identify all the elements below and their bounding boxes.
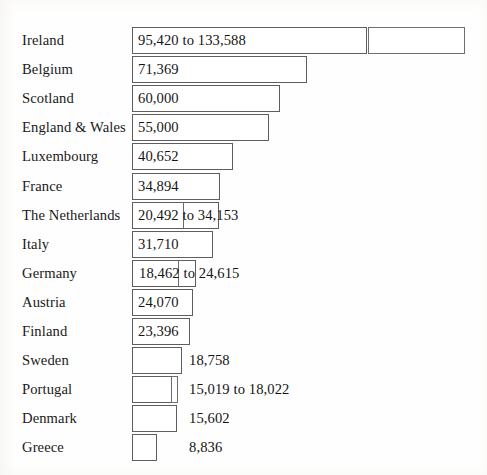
value-label: 18,462 to 24,615: [139, 259, 240, 288]
value-label: 34,894: [138, 172, 179, 201]
value-label: 95,420 to 133,588: [138, 26, 246, 55]
chart-row: Portugal15,019 to 18,022: [0, 375, 487, 404]
category-label: Belgium: [22, 55, 73, 84]
chart-row: England & Wales55,000: [0, 113, 487, 142]
category-label: Luxembourg: [22, 142, 98, 171]
bar-chart: Ireland95,420 to 133,588Belgium71,369Sco…: [0, 0, 487, 475]
bar: [132, 405, 177, 432]
value-label: 31,710: [138, 230, 179, 259]
value-label: 40,652: [138, 142, 179, 171]
category-label: The Netherlands: [22, 201, 120, 230]
chart-row: Luxembourg40,652: [0, 142, 487, 171]
category-label: England & Wales: [22, 113, 126, 142]
bar: [132, 434, 157, 461]
category-label: Ireland: [22, 26, 64, 55]
chart-row: Sweden18,758: [0, 346, 487, 375]
category-label: Denmark: [22, 404, 77, 433]
category-label: Austria: [22, 288, 66, 317]
chart-row: Scotland60,000: [0, 84, 487, 113]
category-label: Italy: [22, 230, 49, 259]
value-label: 23,396: [138, 317, 179, 346]
value-label: 71,369: [138, 55, 179, 84]
value-label: 55,000: [138, 113, 179, 142]
chart-row: Italy31,710: [0, 230, 487, 259]
category-label: Greece: [22, 433, 64, 462]
category-label: Portugal: [22, 375, 72, 404]
value-label: 15,602: [189, 404, 230, 433]
category-label: Germany: [22, 259, 77, 288]
chart-row: Finland23,396: [0, 317, 487, 346]
value-label: 24,070: [138, 288, 179, 317]
value-label: 18,758: [189, 346, 230, 375]
bar: [132, 347, 182, 374]
chart-row: France34,894: [0, 172, 487, 201]
chart-row: Greece8,836: [0, 433, 487, 462]
category-label: Sweden: [22, 346, 69, 375]
value-label: 60,000: [138, 84, 179, 113]
chart-row: Belgium71,369: [0, 55, 487, 84]
chart-row: The Netherlands20,492 to 34,153: [0, 201, 487, 230]
chart-row: Denmark15,602: [0, 404, 487, 433]
value-label: 20,492 to 34,153: [138, 201, 239, 230]
chart-row: Germany18,462 to 24,615: [0, 259, 487, 288]
chart-row: Austria24,070: [0, 288, 487, 317]
value-label: 15,019 to 18,022: [189, 375, 290, 404]
bar: [132, 376, 172, 403]
category-label: Scotland: [22, 84, 74, 113]
category-label: France: [22, 172, 62, 201]
category-label: Finland: [22, 317, 67, 346]
value-label: 8,836: [189, 433, 222, 462]
bar-upper-range: [368, 27, 465, 54]
chart-row: Ireland95,420 to 133,588: [0, 26, 487, 55]
bar-upper-range: [171, 376, 178, 403]
